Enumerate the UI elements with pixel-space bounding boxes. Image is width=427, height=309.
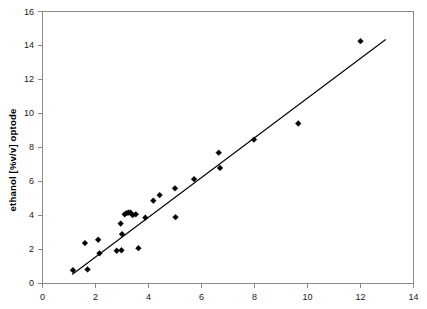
data-point [217,165,223,171]
y-tick-label: 8 [29,142,34,152]
x-tick-label: 12 [355,292,365,302]
scatter-plot: 0 2 4 6 8 10 12 14 16 0 2 4 6 8 [0,0,427,309]
y-tick-label: 12 [24,74,34,84]
y-tick-label: 6 [29,176,34,186]
x-tick-label: 2 [93,292,98,302]
data-point [172,185,178,191]
regression-line-group [72,39,385,274]
data-point [142,215,148,221]
data-point [85,267,91,273]
regression-line [72,39,385,274]
data-point [82,240,88,246]
x-tick-label: 4 [146,292,151,302]
x-tick-label: 8 [252,292,257,302]
y-tick-label: 16 [24,7,34,17]
x-tick-label: 14 [408,292,418,302]
x-tick-label: 6 [199,292,204,302]
data-point [119,247,125,253]
y-tick-label: 0 [29,278,34,288]
data-point [157,192,163,198]
data-point [251,137,257,143]
x-axis-ticks [43,283,414,288]
data-point [295,121,301,127]
data-point [173,214,179,220]
y-axis-ticks [38,12,43,284]
data-point [150,198,156,204]
y-tick-label: 10 [24,108,34,118]
data-point [95,237,101,243]
x-tick-label: 0 [40,292,45,302]
y-tick-label: 2 [29,244,34,254]
data-point [216,150,222,156]
data-point [118,221,124,227]
y-tick-label: 4 [29,210,34,220]
y-axis-title: ethanol [%v/v] optode [7,109,18,212]
x-tick-label: 10 [302,292,312,302]
y-tick-label: 14 [24,40,34,50]
y-axis-title-group: ethanol [%v/v] optode [7,109,18,212]
data-point [136,245,142,251]
y-axis-tick-labels: 0 2 4 6 8 10 12 14 16 [24,7,34,288]
x-axis-tick-labels: 0 2 4 6 8 10 12 14 [40,292,419,302]
data-point-group [70,38,363,273]
chart-figure: 0 2 4 6 8 10 12 14 16 0 2 4 6 8 [0,0,427,309]
data-point [114,248,120,254]
data-point [358,38,364,44]
